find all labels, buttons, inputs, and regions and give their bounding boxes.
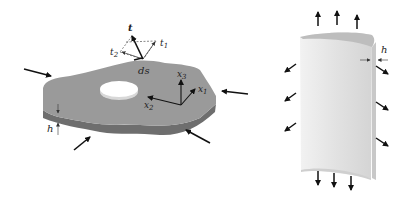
shell-face bbox=[300, 33, 372, 178]
shell-right-edge bbox=[372, 42, 376, 180]
load-arrow-right bbox=[222, 91, 248, 94]
label-t2: t2 bbox=[110, 47, 119, 59]
plate-hole bbox=[100, 81, 138, 100]
plate-diagram: t t1 t2 ds x3 x1 x2 h bbox=[24, 22, 248, 150]
ds-element bbox=[134, 58, 142, 60]
figure-canvas: t t1 t2 ds x3 x1 x2 h bbox=[0, 0, 409, 197]
arrow-right-3 bbox=[376, 138, 388, 146]
load-arrow-left bbox=[24, 69, 51, 76]
arrow-right-2 bbox=[376, 102, 388, 110]
label-h-shell: h bbox=[381, 44, 387, 55]
traction-vector-group bbox=[120, 36, 156, 60]
label-t1: t1 bbox=[160, 38, 168, 50]
arrow-left-2 bbox=[285, 93, 296, 101]
label-t: t bbox=[128, 22, 133, 33]
load-arrow-bottom-left bbox=[74, 137, 90, 150]
shell-diagram: h bbox=[285, 11, 388, 190]
label-ds: ds bbox=[138, 65, 150, 76]
label-h-plate: h bbox=[47, 123, 53, 134]
arrow-left-3 bbox=[285, 123, 296, 131]
load-arrow-bottom-right bbox=[186, 130, 210, 143]
arrow-right-1 bbox=[376, 66, 388, 74]
arrow-left-1 bbox=[285, 64, 296, 72]
